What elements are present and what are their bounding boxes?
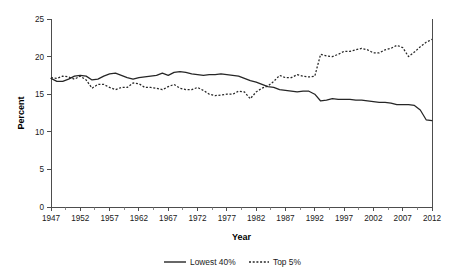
x-tick-label: 1977 [218,214,237,223]
y-axis: 0510152025 [35,15,51,212]
x-tick-label: 1947 [42,214,61,223]
line-chart-svg: 0510152025 19471952195719621967197219771… [0,0,459,277]
x-tick-label: 1987 [276,214,295,223]
x-tick-label: 2012 [423,214,442,223]
data-series-group [51,39,432,120]
legend-label: Lowest 40% [190,257,236,267]
chart-legend: Lowest 40%Top 5% [164,257,301,267]
legend-label: Top 5% [273,257,301,267]
x-tick-label: 2007 [394,214,413,223]
y-tick-label: 15 [35,90,45,99]
y-tick-label: 5 [39,165,44,174]
x-tick-label: 1997 [335,214,354,223]
x-tick-label: 2002 [364,214,383,223]
x-tick-label: 1962 [130,214,149,223]
y-axis-title: Percent [16,96,26,129]
x-tick-label: 1992 [306,214,325,223]
x-tick-label: 1957 [101,214,120,223]
chart-container: 0510152025 19471952195719621967197219771… [0,0,459,277]
series-line-lowest-40 [51,72,432,121]
x-tick-label: 1972 [188,214,207,223]
series-line-top-5 [51,39,432,98]
y-tick-label: 0 [39,203,44,212]
x-tick-label: 1952 [71,214,90,223]
x-tick-label: 1967 [159,214,178,223]
y-tick-label: 20 [35,53,45,62]
x-tick-label: 1982 [247,214,266,223]
x-axis-title: Year [232,232,252,242]
x-axis: 1947195219571962196719721977198219871992… [42,19,442,223]
y-tick-label: 10 [35,128,45,137]
y-tick-label: 25 [35,15,45,24]
